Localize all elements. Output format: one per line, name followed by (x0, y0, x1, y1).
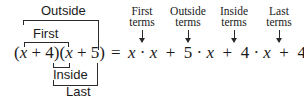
expanded-expression: x · x + 5 · x + 4 · x + 4 · 5 (128, 43, 304, 63)
inside-terms-arrow-icon (234, 30, 235, 42)
inside-label: Inside (53, 67, 88, 82)
outside-label: Outside (41, 3, 86, 18)
outside-bracket-top (23, 20, 99, 21)
equals-sign: = (111, 43, 121, 63)
outside-terms-arrow-icon (188, 30, 189, 42)
last-terms-arrow-icon (279, 30, 280, 42)
outside-bracket-left (23, 20, 24, 25)
outside-terms-label: Outsideterms (162, 6, 214, 28)
last-terms-label: Lastterms (253, 6, 304, 28)
first-terms-arrow-icon (142, 30, 143, 42)
first-label: First (33, 26, 58, 41)
product-expression: (x + 4)(x + 5) (14, 43, 105, 63)
last-bracket-right (97, 63, 98, 86)
last-label: Last (66, 84, 91, 99)
first-terms-label: Firstterms (116, 6, 168, 28)
